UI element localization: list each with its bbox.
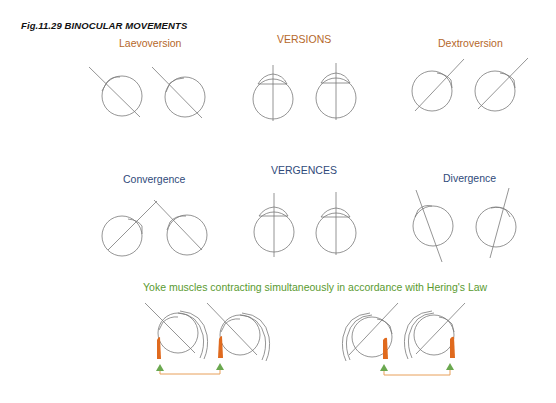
- arrow-up-icon: [446, 363, 454, 370]
- yoke-left-pair: [145, 303, 270, 361]
- muscle-left-2: [218, 336, 223, 358]
- yoke-right-pair: [342, 303, 465, 361]
- eye-diagrams: [0, 0, 556, 403]
- vergences-eyes: [254, 192, 356, 257]
- versions-eyes: [253, 63, 356, 121]
- dextroversion-eyes: [412, 58, 528, 111]
- arrow-up-icon: [380, 364, 388, 371]
- yoke-muscles: [157, 336, 455, 359]
- laevoversion-eyes: [89, 67, 205, 118]
- divergence-eyes: [413, 188, 516, 262]
- arrow-up-icon: [156, 364, 164, 371]
- yoke-connectors: [160, 370, 450, 375]
- muscle-left-1: [157, 337, 161, 359]
- yoke-arrows: [156, 363, 454, 371]
- muscle-right-2: [450, 337, 455, 358]
- convergence-eyes: [102, 200, 207, 256]
- arrow-up-icon: [216, 363, 224, 370]
- muscle-right-1: [383, 338, 388, 359]
